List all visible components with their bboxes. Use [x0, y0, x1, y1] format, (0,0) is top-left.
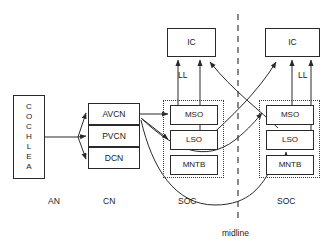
node-mntb-right-label: MNTB — [279, 161, 302, 169]
node-dcn[interactable]: DCN — [88, 147, 140, 169]
node-lso-right[interactable]: LSO — [266, 130, 314, 150]
node-avcn[interactable]: AVCN — [88, 103, 140, 125]
node-lso-left-label: LSO — [186, 136, 202, 144]
label-soc-right: SOC — [277, 196, 295, 206]
node-mntb-right[interactable]: MNTB — [266, 155, 314, 175]
label-midline: midline — [222, 228, 249, 238]
node-lso-right-label: LSO — [282, 136, 298, 144]
node-mso-left[interactable]: MSO — [170, 105, 218, 125]
node-mso-left-label: MSO — [185, 111, 203, 119]
node-mntb-left[interactable]: MNTB — [170, 155, 218, 175]
node-lso-left[interactable]: LSO — [170, 130, 218, 150]
node-mntb-left-label: MNTB — [183, 161, 206, 169]
an-to-avcn — [78, 113, 86, 137]
label-soc-left: SOC — [178, 196, 196, 206]
node-cochlea[interactable]: COCHLEA — [13, 95, 45, 179]
node-mso-right-label: MSO — [281, 111, 299, 119]
node-ic-right[interactable]: IC — [265, 28, 320, 57]
node-mso-right[interactable]: MSO — [266, 105, 314, 125]
diagram-canvas: COCHLEA AVCN PVCN DCN IC IC MSO LSO MNTB… — [0, 0, 336, 247]
node-ic-right-label: IC — [288, 38, 297, 47]
node-dcn-label: DCN — [105, 154, 123, 163]
label-ll-right: LL — [298, 70, 307, 80]
node-pvcn[interactable]: PVCN — [88, 125, 140, 147]
label-ll-left: LL — [178, 70, 187, 80]
label-an: AN — [48, 196, 60, 206]
node-avcn-label: AVCN — [103, 110, 126, 119]
node-ic-left[interactable]: IC — [167, 28, 216, 57]
an-to-pvcn — [78, 136, 86, 137]
an-to-dcn — [78, 137, 86, 159]
node-ic-left-label: IC — [187, 38, 196, 47]
node-cochlea-label: COCHLEA — [26, 102, 32, 172]
label-cn: CN — [103, 196, 115, 206]
node-pvcn-label: PVCN — [102, 132, 126, 141]
